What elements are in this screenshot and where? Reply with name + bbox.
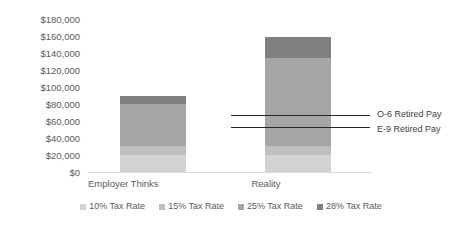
legend-swatch-icon xyxy=(317,204,323,210)
y-axis: $180,000 $160,000 $140,000 $120,000 $100… xyxy=(0,0,86,180)
y-tick-label: $20,000 xyxy=(0,151,80,161)
y-tick-label: $0 xyxy=(0,168,80,178)
legend-swatch-icon xyxy=(80,204,86,210)
legend-swatch-icon xyxy=(238,204,244,210)
bar-segment-10-tax-rate xyxy=(120,155,186,172)
y-tick-label: $80,000 xyxy=(0,100,80,110)
bar-segment-10-tax-rate xyxy=(265,155,331,172)
stacked-bar-chart: $180,000 $160,000 $140,000 $120,000 $100… xyxy=(0,0,462,226)
bar-segment-25-tax-rate xyxy=(120,104,186,146)
legend-item-28-tax-rate[interactable]: 28% Tax Rate xyxy=(317,201,382,212)
y-tick-label: $60,000 xyxy=(0,117,80,127)
annotation-label-o6-retired-pay: O-6 Retired Pay xyxy=(377,109,442,120)
y-tick-label: $180,000 xyxy=(0,15,80,25)
bar-segment-28-tax-rate xyxy=(265,37,331,58)
annotation-line-e9-retired-pay xyxy=(231,127,370,128)
y-tick-label: $120,000 xyxy=(0,66,80,76)
category-label-reality: Reality xyxy=(233,178,299,190)
legend-item-15-tax-rate[interactable]: 15% Tax Rate xyxy=(159,201,224,212)
legend-label: 10% Tax Rate xyxy=(89,201,145,212)
legend-label: 15% Tax Rate xyxy=(168,201,224,212)
chart-legend: 10% Tax Rate 15% Tax Rate 25% Tax Rate 2… xyxy=(0,201,462,212)
legend-label: 25% Tax Rate xyxy=(247,201,303,212)
y-tick-label: $160,000 xyxy=(0,32,80,42)
bar-reality xyxy=(265,37,331,172)
axis-baseline xyxy=(88,172,372,173)
bar-segment-15-tax-rate xyxy=(120,146,186,155)
legend-item-25-tax-rate[interactable]: 25% Tax Rate xyxy=(238,201,303,212)
y-tick-label: $140,000 xyxy=(0,49,80,59)
bar-employer-thinks xyxy=(120,96,186,172)
legend-label: 28% Tax Rate xyxy=(326,201,382,212)
category-label-employer-thinks: Employer Thinks xyxy=(88,178,154,190)
annotation-label-e9-retired-pay: E-9 Retired Pay xyxy=(377,124,441,135)
y-tick-label: $100,000 xyxy=(0,83,80,93)
bar-segment-15-tax-rate xyxy=(265,146,331,155)
annotation-line-o6-retired-pay xyxy=(231,115,370,116)
bar-segment-25-tax-rate xyxy=(265,58,331,146)
bar-segment-28-tax-rate xyxy=(120,96,186,104)
legend-item-10-tax-rate[interactable]: 10% Tax Rate xyxy=(80,201,145,212)
y-tick-label: $40,000 xyxy=(0,134,80,144)
legend-swatch-icon xyxy=(159,204,165,210)
plot-area xyxy=(88,20,370,172)
